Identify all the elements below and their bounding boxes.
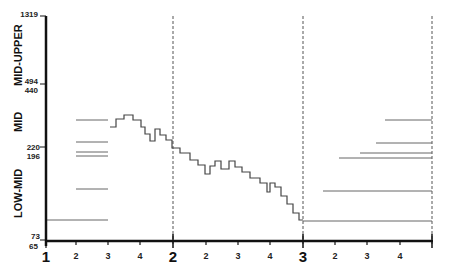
x-minor-tick: 2 <box>69 251 83 261</box>
right-reference-lines <box>303 120 432 221</box>
y-tick-65: 65 <box>10 242 38 251</box>
y-tick-73: 73 <box>12 232 40 241</box>
zone-label-mid: MID <box>12 112 24 132</box>
left-reference-lines <box>46 120 108 220</box>
y-tick-440: 440 <box>10 86 38 95</box>
x-minor-tick: 3 <box>360 251 374 261</box>
x-major-tick-3: 3 <box>293 248 313 265</box>
y-tick-494: 494 <box>10 77 38 86</box>
x-minor-tick: 2 <box>328 251 342 261</box>
x-minor-tick: 3 <box>231 251 245 261</box>
x-major-tick-2: 2 <box>163 248 183 265</box>
step-line-series <box>110 115 303 220</box>
x-minor-tick: 2 <box>199 251 213 261</box>
y-tick-220: 220 <box>12 143 40 152</box>
x-minor-tick: 4 <box>133 251 147 261</box>
x-minor-tick: 4 <box>393 251 407 261</box>
x-minor-tick: 4 <box>263 251 277 261</box>
x-major-tick-1: 1 <box>36 248 56 265</box>
y-tick-1319: 1319 <box>10 10 38 19</box>
zone-label-low-mid: LOW-MID <box>12 169 24 218</box>
y-tick-196: 196 <box>12 152 40 161</box>
x-minor-tick: 3 <box>101 251 115 261</box>
chart-canvas <box>0 0 450 278</box>
